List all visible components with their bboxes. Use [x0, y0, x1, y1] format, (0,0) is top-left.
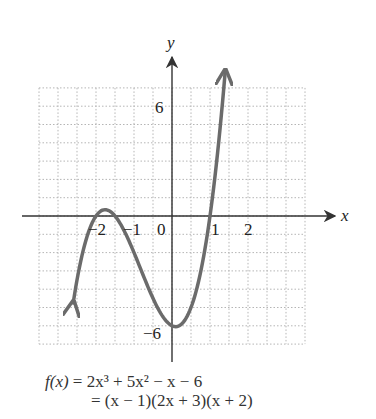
formula-expanded: = 2x³ + 5x² − x − 6: [69, 372, 203, 391]
chart-canvas: y x 6 −6 −2 −1 0 1 2: [0, 0, 376, 419]
y-tick-neg6: −6: [143, 324, 161, 343]
x-tick-0: 0: [157, 220, 166, 239]
formula-line-1: f(x) = 2x³ + 5x² − x − 6: [45, 372, 202, 392]
x-tick-neg2: −2: [88, 220, 106, 239]
x-tick-neg1: −1: [123, 220, 141, 239]
y-tick-6: 6: [155, 98, 164, 117]
y-axis-label: y: [165, 33, 175, 52]
formula-line-2: = (x − 1)(2x + 3)(x + 2): [91, 391, 253, 411]
x-axis-label: x: [340, 206, 349, 225]
x-tick-1: 1: [211, 220, 220, 239]
formula-lhs: f(x): [45, 372, 69, 391]
x-tick-2: 2: [244, 220, 253, 239]
